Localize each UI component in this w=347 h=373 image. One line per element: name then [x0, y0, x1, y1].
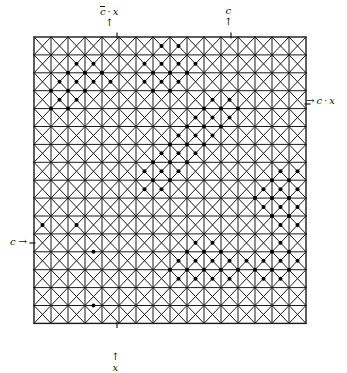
marked-vertex-dot — [66, 107, 70, 111]
marked-vertex-dot — [160, 187, 164, 191]
marked-vertex-dot — [296, 169, 300, 173]
marked-vertex-dot — [270, 178, 274, 182]
marked-vertex-dot — [202, 142, 206, 146]
marked-vertex-dot — [194, 62, 198, 66]
marked-vertex-dot — [219, 268, 223, 272]
label-c-dot-x: →c·x — [306, 96, 335, 106]
marked-vertex-dot — [194, 277, 198, 281]
label-c-left: c→ — [10, 237, 27, 247]
marked-vertex-dot — [287, 250, 291, 254]
marked-vertex-dot — [270, 250, 274, 254]
marked-vertex-dot — [100, 71, 104, 75]
marked-vertex-dot — [177, 62, 181, 66]
x-symbol: x — [329, 95, 335, 106]
marked-vertex-dot — [160, 169, 164, 173]
marked-vertex-dot — [296, 187, 300, 191]
marked-vertex-dot — [83, 71, 87, 75]
marked-vertex-dot — [151, 178, 155, 182]
right-arrow-icon: → — [16, 236, 27, 247]
marked-vertex-dot — [262, 205, 266, 209]
marked-vertex-dot — [296, 223, 300, 227]
marked-vertex-dot — [143, 62, 147, 66]
marked-vertex-dot — [211, 98, 215, 102]
marked-vertex-dot — [270, 214, 274, 218]
marked-vertex-dot — [287, 214, 291, 218]
marked-vertex-dot — [211, 133, 215, 137]
marked-vertex-dot — [236, 107, 240, 111]
x-symbol: x — [113, 6, 119, 17]
marked-vertex-dot — [279, 241, 283, 245]
marked-vertex-dot — [75, 62, 79, 66]
marked-vertex-dot — [49, 89, 53, 93]
marked-vertex-dot — [92, 80, 96, 84]
up-arrow-icon: ↑ — [111, 351, 119, 362]
marked-vertex-dot — [236, 268, 240, 272]
marked-vertex-dot — [49, 107, 53, 111]
marked-vertex-dot — [160, 80, 164, 84]
marked-vertex-dot — [160, 44, 164, 48]
marked-vertex-dot — [194, 151, 198, 155]
marked-vertex-dot — [211, 259, 215, 263]
marked-vertex-dot — [228, 277, 232, 281]
c-symbol: c — [314, 95, 322, 106]
marked-vertex-dot — [151, 71, 155, 75]
marked-vertex-dot — [219, 250, 223, 254]
marked-vertex-dot — [211, 116, 215, 120]
marked-vertex-dot — [287, 196, 291, 200]
marked-vertex-dot — [202, 107, 206, 111]
marked-vertex-dot — [185, 142, 189, 146]
up-arrow-icon: ↑ — [105, 17, 113, 28]
marked-vertex-dot — [287, 268, 291, 272]
label-c-top: c ↑ — [224, 6, 232, 27]
marked-vertex-dot — [151, 160, 155, 164]
marked-vertex-dot — [202, 125, 206, 129]
marked-vertex-dot — [219, 107, 223, 111]
marked-vertex-dot — [160, 151, 164, 155]
marked-vertex-dot — [279, 205, 283, 209]
up-arrow-icon: ↑ — [224, 16, 232, 27]
marked-vertex-dot — [211, 241, 215, 245]
marked-vertex-dot — [92, 62, 96, 66]
marked-vertex-dot — [177, 277, 181, 281]
marked-vertex-dot — [194, 133, 198, 137]
marked-vertex-dot — [185, 71, 189, 75]
marked-vertex-dot — [202, 250, 206, 254]
marked-vertex-dot — [262, 259, 266, 263]
marked-vertex-dot — [143, 80, 147, 84]
x-symbol: x — [112, 362, 118, 373]
marked-vertex-dot — [194, 259, 198, 263]
marked-vertex-dot — [185, 268, 189, 272]
marked-vertex-dot — [287, 178, 291, 182]
marked-vertex-dot — [177, 151, 181, 155]
marked-vertex-dot — [185, 160, 189, 164]
marked-vertex-dot — [279, 259, 283, 263]
marked-vertex-dot — [168, 178, 172, 182]
label-x-bottom: ↑ x — [111, 352, 119, 373]
marked-vertex-dot — [66, 71, 70, 75]
marked-vertex-dot — [253, 268, 257, 272]
marked-vertex-dot — [228, 98, 232, 102]
marked-vertex-dot — [143, 187, 147, 191]
c-symbol: c — [225, 5, 231, 16]
marked-vertex-dot — [75, 80, 79, 84]
marked-vertex-dot — [168, 142, 172, 146]
marked-vertex-dot — [245, 259, 249, 263]
marked-vertex-dot — [160, 62, 164, 66]
marked-vertex-dot — [253, 196, 257, 200]
marked-vertex-dot — [143, 169, 147, 173]
marked-vertex-dot — [228, 259, 232, 263]
marked-vertex-dot — [296, 259, 300, 263]
marked-vertex-dot — [177, 44, 181, 48]
marked-vertex-dot — [185, 125, 189, 129]
marked-vertex-dot — [66, 89, 70, 93]
marked-vertex-dot — [279, 223, 283, 227]
marked-vertex-dot — [168, 268, 172, 272]
marked-vertex-dot — [270, 196, 274, 200]
marked-vertex-dot — [58, 98, 62, 102]
marked-vertex-dot — [41, 223, 45, 227]
marked-vertex-dot — [194, 116, 198, 120]
marked-vertex-dot — [194, 241, 198, 245]
marked-vertex-dot — [92, 250, 96, 254]
